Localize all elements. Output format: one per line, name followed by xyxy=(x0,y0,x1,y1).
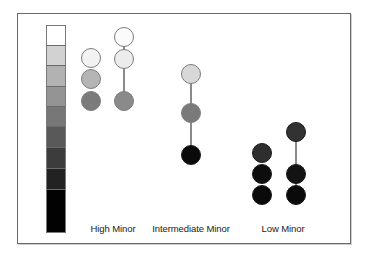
tone-circle xyxy=(181,145,201,165)
scale-segment-4 xyxy=(47,87,65,107)
tone-circle xyxy=(114,27,134,47)
scale-segment-5 xyxy=(47,107,65,127)
tone-circle xyxy=(286,164,306,184)
scale-segment-8 xyxy=(47,169,65,190)
tone-circle xyxy=(252,164,272,184)
label-intermediate-minor: Intermediate Minor xyxy=(152,223,229,234)
scale-segment-1 xyxy=(47,26,65,46)
label-high-minor: High Minor xyxy=(91,223,136,234)
scale-segment-6 xyxy=(47,127,65,148)
tone-circle xyxy=(81,91,101,111)
tone-circle xyxy=(252,143,272,163)
tone-circle xyxy=(81,69,101,89)
tone-circle xyxy=(114,49,134,69)
tone-circle xyxy=(114,91,134,111)
scale-segment-3 xyxy=(47,66,65,87)
scale-segment-9 xyxy=(47,190,65,232)
grayscale-scale-bar xyxy=(46,25,66,233)
scale-segment-2 xyxy=(47,46,65,66)
scale-segment-7 xyxy=(47,148,65,169)
tone-circle xyxy=(181,64,201,84)
tone-circle xyxy=(252,185,272,205)
tone-circle xyxy=(181,103,201,123)
tone-circle xyxy=(81,48,101,68)
tone-circle xyxy=(286,122,306,142)
label-low-minor: Low Minor xyxy=(262,223,305,234)
tone-circle xyxy=(286,185,306,205)
